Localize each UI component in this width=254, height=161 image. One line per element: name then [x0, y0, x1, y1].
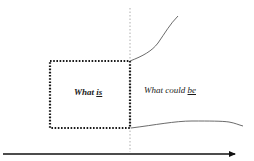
lower-potential-curve: [131, 121, 243, 128]
future-state-label-emphasis: be: [188, 85, 197, 95]
diagram-canvas: [0, 0, 254, 161]
current-state-label-emphasis: is: [96, 87, 102, 97]
future-state-label: What could be: [144, 86, 196, 95]
current-state-label: What is: [74, 88, 102, 97]
current-state-label-prefix: What: [74, 87, 96, 97]
future-state-label-prefix: What could: [144, 85, 188, 95]
upper-potential-curve: [130, 16, 178, 61]
